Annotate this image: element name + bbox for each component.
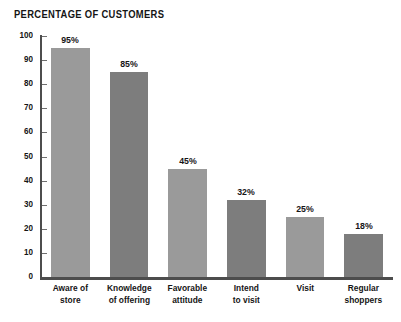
bar-value-label: 32% <box>238 186 255 197</box>
x-axis-label-line: to visit <box>219 295 274 307</box>
bar-value-label: 18% <box>355 220 372 231</box>
x-axis-label-line: Knowledge <box>102 283 157 295</box>
x-axis-category-label: Regularshoppers <box>334 283 393 306</box>
y-axis-tick-label: 80 <box>3 78 33 88</box>
bar: 45% <box>168 169 206 277</box>
y-axis-tick-label: 20 <box>3 223 33 233</box>
x-axis-category-label: Visit <box>276 283 335 295</box>
y-axis-tick-label: 50 <box>3 151 33 161</box>
x-axis-label-line: Favorable <box>160 283 215 295</box>
y-axis-tick-label: 0 <box>3 271 33 281</box>
bar: 85% <box>110 72 148 277</box>
bar-value-label: 45% <box>179 155 196 166</box>
y-axis-tick-label: 60 <box>3 126 33 136</box>
x-axis-label-line: Aware of <box>43 283 98 295</box>
x-axis-label-line: attitude <box>160 295 215 307</box>
x-axis-category-label: Favorableattitude <box>158 283 217 306</box>
x-axis-label-line: shoppers <box>336 295 391 307</box>
y-axis-tick-label: 100 <box>3 30 33 40</box>
x-axis-category-label: Aware ofstore <box>41 283 100 306</box>
y-axis-tick-label: 40 <box>3 175 33 185</box>
y-axis-tick-label: 90 <box>3 54 33 64</box>
bar-chart: PERCENTAGE OF CUSTOMERS 0102030405060708… <box>0 0 401 322</box>
bar: 95% <box>51 48 89 277</box>
x-axis-label-line: store <box>43 295 98 307</box>
bar: 32% <box>227 200 265 277</box>
bar-value-label: 85% <box>120 58 137 69</box>
y-axis-tick-label: 10 <box>3 247 33 257</box>
plot-area: 95%85%45%32%25%18% <box>41 36 393 277</box>
x-axis-label-line: of offering <box>102 295 157 307</box>
y-axis-tick-label: 70 <box>3 102 33 112</box>
x-axis-category-label: Knowledgeof offering <box>100 283 159 306</box>
chart-title: PERCENTAGE OF CUSTOMERS <box>14 9 164 20</box>
bar: 25% <box>286 217 324 277</box>
x-axis-label-line: Intend <box>219 283 274 295</box>
y-axis-tick-label: 30 <box>3 199 33 209</box>
bar-value-label: 25% <box>296 203 313 214</box>
x-axis-label-line: Regular <box>336 283 391 295</box>
x-axis-line <box>40 277 393 280</box>
x-axis-labels: Aware ofstoreKnowledgeof offeringFavorab… <box>41 283 393 321</box>
x-axis-category-label: Intendto visit <box>217 283 276 306</box>
bar-value-label: 95% <box>62 34 79 45</box>
x-axis-label-line: Visit <box>278 283 333 295</box>
bar: 18% <box>344 234 382 277</box>
